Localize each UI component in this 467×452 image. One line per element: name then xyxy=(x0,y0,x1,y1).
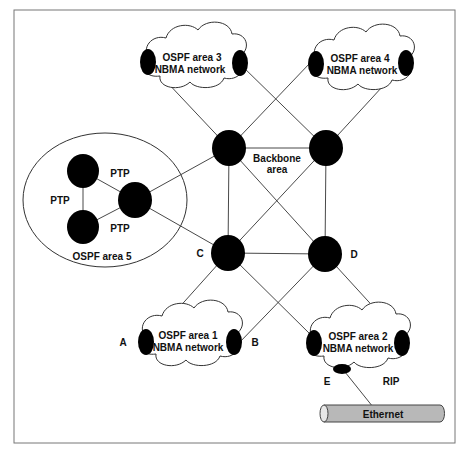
router-area5-top xyxy=(67,154,99,188)
backbone-label-line2: area xyxy=(267,164,288,175)
router-b xyxy=(226,329,242,355)
area3-label-line2: NBMA network xyxy=(155,64,226,75)
router-c xyxy=(211,235,245,271)
router-area3-left xyxy=(140,49,156,75)
router-area4-left xyxy=(308,51,324,77)
area5-boundary xyxy=(23,133,187,267)
router-d xyxy=(308,236,342,272)
cloud-area1: OSPF area 1 NBMA network xyxy=(138,300,242,366)
cloud-area2: OSPF area 2 NBMA network xyxy=(306,302,410,374)
ptp-label-bottom: PTP xyxy=(110,223,130,234)
label-a: A xyxy=(119,337,126,348)
area3-label-line1: OSPF area 3 xyxy=(163,52,222,63)
label-e: E xyxy=(324,376,331,387)
cloud-area4: OSPF area 4 NBMA network xyxy=(308,24,414,90)
label-rip: RIP xyxy=(383,376,400,387)
ospf-network-diagram: OSPF area 3 NBMA network OSPF area 4 NBM… xyxy=(0,0,467,452)
label-b: B xyxy=(251,337,258,348)
ptp-label-top: PTP xyxy=(110,168,130,179)
backbone-label-line1: Backbone xyxy=(253,153,301,164)
router-backbone-top-right xyxy=(309,130,343,166)
label-c: C xyxy=(196,248,203,259)
ptp-label-left: PTP xyxy=(50,195,70,206)
area1-label-line2: NBMA network xyxy=(153,342,224,353)
area5-label: OSPF area 5 xyxy=(73,251,132,262)
area4-label-line2: NBMA network xyxy=(327,65,398,76)
router-e xyxy=(333,364,351,374)
area2-label-line2: NBMA network xyxy=(323,343,394,354)
area1-label-line1: OSPF area 1 xyxy=(159,330,218,341)
router-area2-right xyxy=(394,330,410,356)
router-area3-right xyxy=(232,50,248,76)
area4-label-line1: OSPF area 4 xyxy=(331,53,390,64)
area2-label-line1: OSPF area 2 xyxy=(329,331,388,342)
router-area5-border xyxy=(118,182,152,218)
cloud-area3: OSPF area 3 NBMA network xyxy=(140,22,248,88)
router-a xyxy=(138,329,154,355)
ethernet-label: Ethernet xyxy=(363,409,404,420)
router-backbone-top-left xyxy=(212,130,246,166)
router-area5-bottom xyxy=(67,210,99,244)
router-area2-left xyxy=(306,330,322,356)
ethernet-segment: Ethernet xyxy=(320,405,445,422)
label-d: D xyxy=(350,249,357,260)
router-area4-right xyxy=(398,50,414,76)
